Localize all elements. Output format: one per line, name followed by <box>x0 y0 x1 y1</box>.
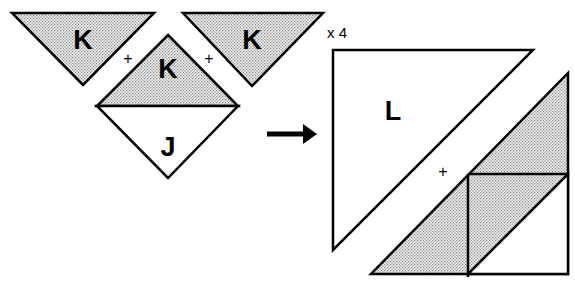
quilt-block-diagram: K + K J + K x 4 L + <box>0 0 575 281</box>
plus-sign-left: + <box>123 50 132 67</box>
multiplier-label: x 4 <box>327 24 347 41</box>
label-l: L <box>385 96 402 126</box>
arrow-right-icon <box>267 124 317 144</box>
diamond-kj: K J <box>97 35 238 178</box>
label-j: J <box>160 132 175 162</box>
plus-sign-right: + <box>204 50 213 67</box>
plus-sign-bottom: + <box>438 163 447 180</box>
label-k-left: K <box>73 25 93 55</box>
label-k-right: K <box>242 25 262 55</box>
label-k-center: K <box>158 54 178 84</box>
